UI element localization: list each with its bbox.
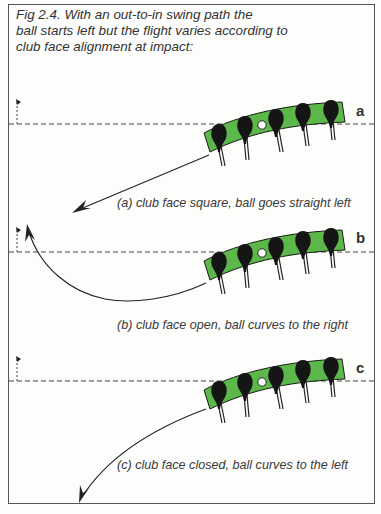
panel-c-diagram xyxy=(9,356,375,503)
diagram-canvas xyxy=(0,0,381,514)
panel-c-label: c xyxy=(356,359,364,376)
panel-b-caption: (b) club face open, ball curves to the r… xyxy=(117,318,348,332)
flight-path-curve-left xyxy=(79,409,206,503)
panel-b-diagram xyxy=(9,224,375,301)
panel-c-caption: (c) club face closed, ball curves to the… xyxy=(117,458,348,472)
panel-a-caption: (a) club face square, ball goes straight… xyxy=(117,196,351,210)
flight-path-curve-right xyxy=(25,224,206,301)
panel-b-label: b xyxy=(356,229,365,246)
panel-a-label: a xyxy=(356,102,364,119)
